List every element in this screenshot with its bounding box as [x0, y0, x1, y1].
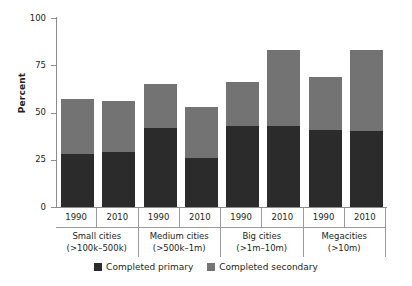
x-axis-group-range: (>500k–1m) [139, 243, 221, 255]
bar-group [61, 18, 94, 207]
x-axis-group-range: (>10m) [304, 243, 386, 255]
y-tick-label: 100 [18, 14, 46, 23]
legend-item[interactable]: Completed primary [94, 262, 193, 272]
x-axis-labels: 19902010199020101990201019902010 Small c… [56, 208, 387, 257]
y-tick-label: 0 [18, 203, 46, 212]
legend-label: Completed primary [106, 262, 193, 272]
x-axis-group-name: Megacities [304, 231, 386, 243]
bar-group [144, 18, 177, 207]
bar-group [226, 18, 259, 207]
y-tick-mark [51, 160, 56, 161]
bar-group [309, 18, 342, 207]
x-axis-category-row: Small cities(>100k–500k)Medium cities(>5… [56, 227, 387, 257]
y-tick-mark [51, 65, 56, 66]
x-axis-year-label: 1990 [304, 208, 345, 227]
y-tick-mark [51, 113, 56, 114]
y-tick-mark [51, 18, 56, 19]
x-axis-group-label: Medium cities(>500k–1m) [139, 227, 222, 257]
chart-legend: Completed primaryCompleted secondary [0, 262, 412, 272]
bar-segment-primary [144, 128, 177, 207]
bar-group [350, 18, 383, 207]
bar-segment-primary [350, 131, 383, 207]
y-tick-label: 25 [18, 155, 46, 164]
x-axis-group-range: (>1m–10m) [221, 243, 303, 255]
y-tick-label: 50 [18, 108, 46, 117]
bar-segment-primary [185, 158, 218, 207]
x-axis-year-label: 2010 [97, 208, 138, 227]
x-axis-year-label: 1990 [139, 208, 180, 227]
x-axis-year-label: 2010 [262, 208, 303, 227]
x-axis-group-range: (>100k–500k) [56, 243, 138, 255]
bar-segment-primary [309, 130, 342, 207]
legend-item[interactable]: Completed secondary [207, 262, 318, 272]
bar-segment-secondary [102, 101, 135, 152]
bar-chart: Percent 0255075100 199020101990201019902… [0, 0, 412, 286]
bar-segment-secondary [185, 107, 218, 158]
x-axis-year-label: 1990 [56, 208, 97, 227]
x-axis-year-label: 2010 [180, 208, 221, 227]
bar-segment-secondary [226, 82, 259, 125]
plot-area [57, 18, 387, 207]
y-tick-label: 75 [18, 61, 46, 70]
x-axis-group-name: Medium cities [139, 231, 221, 243]
x-axis-group-name: Small cities [56, 231, 138, 243]
bar-segment-primary [102, 152, 135, 207]
x-axis-year-row: 19902010199020101990201019902010 [56, 208, 387, 227]
legend-label: Completed secondary [219, 262, 318, 272]
x-axis-group-label: Big cities(>1m–10m) [221, 227, 304, 257]
x-axis-group-name: Big cities [221, 231, 303, 243]
bar-segment-secondary [61, 99, 94, 154]
legend-swatch-icon [207, 263, 215, 271]
bar-segment-secondary [350, 50, 383, 131]
bar-segment-secondary [267, 50, 300, 126]
bar-segment-primary [226, 126, 259, 207]
bar-segment-primary [61, 154, 94, 207]
legend-swatch-icon [94, 263, 102, 271]
x-axis-year-label: 2010 [345, 208, 386, 227]
bar-group [185, 18, 218, 207]
x-axis-year-label: 1990 [221, 208, 262, 227]
bar-segment-primary [267, 126, 300, 207]
bar-group [267, 18, 300, 207]
bar-segment-secondary [309, 77, 342, 130]
bar-segment-secondary [144, 84, 177, 127]
bar-group [102, 18, 135, 207]
x-axis-group-label: Small cities(>100k–500k) [56, 227, 139, 257]
x-axis-group-label: Megacities(>10m) [304, 227, 387, 257]
